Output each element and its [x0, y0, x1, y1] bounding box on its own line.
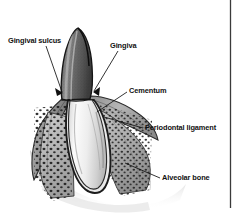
label-alveolar-bone: Alveolar bone — [162, 174, 210, 181]
arrowhead-gingiva — [93, 87, 100, 96]
tooth-anatomy-figure: Gingival sulcus Gingiva Cementum Periodo… — [0, 0, 241, 220]
leader-gingival-sulcus — [46, 46, 62, 92]
label-gingiva: Gingiva — [110, 42, 136, 49]
label-periodontal-ligament: Periodontal ligament — [145, 124, 216, 131]
tooth-crown — [58, 26, 98, 104]
tooth-anatomy-illustration — [0, 0, 241, 220]
leader-gingiva — [94, 51, 118, 91]
label-gingival-sulcus: Gingival sulcus — [8, 37, 61, 44]
label-cementum: Cementum — [129, 87, 166, 94]
